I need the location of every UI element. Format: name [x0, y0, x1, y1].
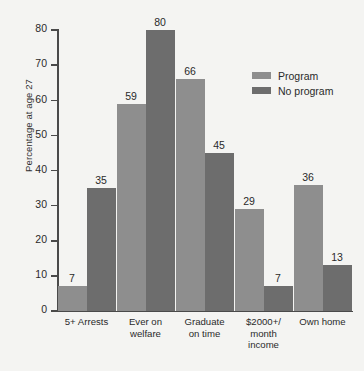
- bar[interactable]: 45: [205, 153, 234, 311]
- bar-value-label: 35: [95, 174, 107, 186]
- bar-value-label: 45: [213, 139, 225, 151]
- bar[interactable]: 7: [58, 286, 87, 311]
- legend-label: Program: [278, 70, 318, 82]
- bar-value-label: 59: [125, 90, 137, 102]
- bar[interactable]: 7: [264, 286, 293, 311]
- y-axis-tick-label: 60: [35, 93, 47, 105]
- bar-group: 735: [58, 30, 116, 311]
- bar[interactable]: 66: [176, 79, 205, 311]
- bar[interactable]: 80: [146, 30, 175, 311]
- bar-value-label: 36: [302, 171, 314, 183]
- bar-value-label: 13: [331, 251, 343, 263]
- legend-swatch: [252, 87, 271, 94]
- x-axis-label: Own home: [285, 316, 361, 328]
- x-axis-label-line: income: [226, 339, 302, 351]
- legend: ProgramNo program: [252, 68, 333, 98]
- y-axis-tick-label: 0: [41, 303, 47, 315]
- bar-value-label: 66: [184, 65, 196, 77]
- bar-group: 5980: [117, 30, 175, 311]
- y-axis-tick-label: 50: [35, 128, 47, 140]
- bar-value-label: 7: [275, 272, 281, 284]
- x-axis-label-line: Own home: [285, 316, 361, 328]
- y-axis-title: Percentage at age 27: [23, 36, 34, 216]
- y-axis-tick-label: 70: [35, 57, 47, 69]
- bar-value-label: 29: [243, 195, 255, 207]
- bar-value-label: 80: [154, 16, 166, 28]
- y-axis-tick-label: 20: [35, 233, 47, 245]
- legend-item[interactable]: No program: [252, 83, 333, 98]
- legend-swatch: [252, 72, 271, 79]
- bar[interactable]: 13: [323, 265, 352, 311]
- bar[interactable]: 36: [294, 185, 323, 311]
- legend-item[interactable]: Program: [252, 68, 333, 83]
- bar[interactable]: 29: [235, 209, 264, 311]
- bar[interactable]: 59: [117, 104, 146, 311]
- y-axis-tick-label: 30: [35, 198, 47, 210]
- legend-label: No program: [278, 85, 333, 97]
- bar-chart: Percentage at age 27 01020304050607080 7…: [0, 0, 364, 371]
- bar-value-label: 7: [69, 272, 75, 284]
- y-axis-tick-label: 40: [35, 163, 47, 175]
- y-axis-tick-label: 80: [35, 22, 47, 34]
- y-axis-tick-label: 10: [35, 268, 47, 280]
- x-axis-label-line: month: [226, 328, 302, 340]
- bar-group: 6645: [176, 30, 234, 311]
- bar[interactable]: 35: [87, 188, 116, 311]
